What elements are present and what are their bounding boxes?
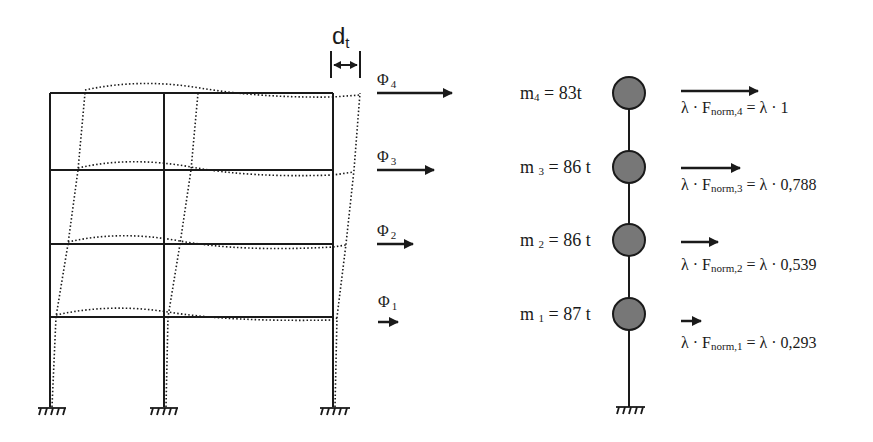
svg-text:Φ4: Φ4 xyxy=(377,71,397,90)
svg-text:Φ1: Φ1 xyxy=(378,293,397,312)
mass-1-icon xyxy=(613,298,645,330)
frame-structure xyxy=(50,93,333,407)
force-label-3: λ · Fnorm,3 = λ · 0,788 xyxy=(681,176,817,194)
svg-text:Φ3: Φ3 xyxy=(377,148,397,167)
pushover-diagram: dt Φ4 Φ3 Φ2 Φ1 m4 = 83t m 3 = 86 t m 2 =… xyxy=(0,0,873,442)
mass-4-icon xyxy=(613,77,645,109)
force-label-1: λ · Fnorm,1 = λ · 0,293 xyxy=(681,334,817,352)
mass-2-icon xyxy=(613,224,645,256)
stick-model xyxy=(613,77,645,414)
mass-label-3: m 3 = 86 t xyxy=(520,157,591,177)
force-label-4: λ · Fnorm,4 = λ · 1 xyxy=(681,99,789,117)
displacement-dimension xyxy=(331,51,360,78)
mass-3-icon xyxy=(613,151,645,183)
mass-label-1: m 1 = 87 t xyxy=(520,304,591,324)
force-label-2: λ · Fnorm,2 = λ · 0,539 xyxy=(681,256,817,274)
fixed-support-icon xyxy=(616,407,645,414)
fixed-support-icon xyxy=(320,408,350,415)
mass-label-2: m 2 = 86 t xyxy=(520,230,591,250)
fixed-support-icon xyxy=(38,408,66,415)
mode-shape-3: Φ3 xyxy=(377,148,434,170)
mode-shape-2: Φ2 xyxy=(377,222,413,244)
frame-supports xyxy=(38,408,350,415)
deformed-shape xyxy=(52,83,360,407)
mode-shape-4: Φ4 xyxy=(377,71,452,93)
svg-text:Φ2: Φ2 xyxy=(377,222,396,241)
fixed-support-icon xyxy=(150,408,178,415)
mass-label-4: m4 = 83t xyxy=(520,83,582,103)
displacement-label: dt xyxy=(332,22,350,51)
mode-shape-1: Φ1 xyxy=(378,293,398,322)
